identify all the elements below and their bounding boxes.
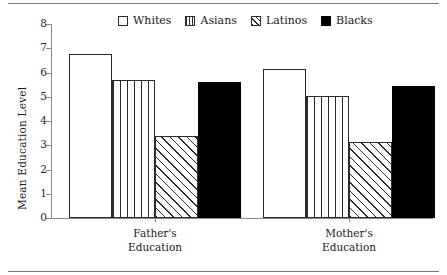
y-tick-label: 5 — [40, 90, 47, 103]
y-tick-label: 8 — [40, 17, 47, 30]
y-axis-title-container: Mean Education Level — [18, 24, 32, 218]
bar-blacks-group-1 — [198, 82, 241, 218]
bar-latinos-group-2 — [349, 142, 392, 218]
x-axis-group-tick-2 — [349, 218, 350, 222]
bar-chart-figure: Whites Asians Latinos Blacks Mean Educat… — [0, 0, 447, 275]
x-axis-group-label-line: Education — [75, 240, 235, 254]
y-tick-label: 1 — [40, 187, 47, 200]
x-axis-group-label-line: Father's — [75, 226, 235, 240]
x-axis-group-tick-1 — [155, 218, 156, 222]
y-axis-line — [51, 24, 52, 218]
y-axis-title: Mean Education Level — [16, 60, 28, 210]
bar-asians-group-2 — [306, 96, 349, 218]
x-axis-group-label-1: Father'sEducation — [75, 226, 235, 254]
bar-latinos-group-1 — [155, 136, 198, 218]
y-tick-label: 0 — [40, 211, 47, 224]
bar-asians-group-1 — [112, 80, 155, 218]
bar-whites-group-1 — [69, 54, 112, 218]
y-tick-label: 2 — [40, 163, 47, 176]
bar-blacks-group-2 — [392, 86, 435, 218]
bar-whites-group-2 — [263, 69, 306, 218]
plot-area: 012345678 Father'sEducationMother'sEduca… — [51, 24, 433, 218]
figure-top-rule — [8, 3, 439, 4]
x-axis-group-label-2: Mother'sEducation — [269, 226, 429, 254]
x-axis-line — [51, 218, 433, 219]
y-tick-label: 7 — [40, 41, 47, 54]
x-axis-group-label-line: Education — [269, 240, 429, 254]
y-tick-label: 6 — [40, 66, 47, 79]
figure-bottom-rule — [8, 271, 439, 272]
y-tick-label: 4 — [40, 114, 47, 127]
y-tick-label: 3 — [40, 138, 47, 151]
x-axis-group-label-line: Mother's — [269, 226, 429, 240]
